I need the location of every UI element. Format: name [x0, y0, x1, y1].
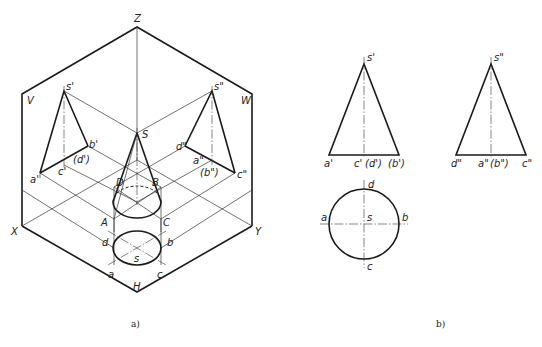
- label-a-dprime: a": [193, 155, 204, 166]
- label-v: V: [27, 95, 35, 106]
- label-s-dprime: s": [214, 81, 224, 92]
- label-a: a: [108, 269, 114, 280]
- projector-c-v: [64, 165, 137, 202]
- label-b-prime: b': [89, 139, 98, 150]
- label-side-c: c": [522, 158, 532, 169]
- label-B: B: [152, 177, 159, 188]
- label-w: W: [241, 95, 252, 106]
- label-side-b: (b"): [490, 158, 509, 169]
- label-x: X: [10, 226, 19, 237]
- label-c: c: [157, 269, 163, 280]
- label-s-prime: s': [66, 81, 74, 92]
- label-side-apex: s": [494, 52, 504, 63]
- figure-b: s' a' c' (d') (b') s" d" a" (b") c" d a …: [320, 52, 532, 329]
- label-top-c: c: [367, 261, 373, 272]
- label-front-c: c': [354, 158, 362, 169]
- label-h: H: [133, 281, 141, 292]
- label-front-apex: s': [367, 52, 375, 63]
- caption-a: a): [131, 319, 140, 329]
- label-top-s: s: [367, 212, 372, 223]
- label-d-prime: (d'): [73, 154, 90, 165]
- label-top-b: b: [402, 212, 408, 223]
- label-front-a: a': [324, 158, 333, 169]
- projector-h-right: [161, 190, 252, 248]
- label-b-dprime: (b"): [200, 167, 219, 178]
- label-side-a: a": [478, 158, 489, 169]
- label-s: s: [134, 253, 139, 264]
- label-top-d: d: [368, 179, 375, 190]
- label-D: D: [116, 177, 124, 188]
- projector-s-v: [64, 91, 137, 133]
- label-d-dprime: d": [176, 141, 187, 152]
- label-C: C: [163, 217, 170, 228]
- cone-generatrix-left: [113, 133, 137, 202]
- projector-s-w: [137, 91, 212, 133]
- label-front-d: (d'): [365, 158, 382, 169]
- label-A: A: [100, 217, 108, 228]
- label-c-prime: c': [58, 166, 66, 177]
- label-b: b: [167, 237, 173, 248]
- label-S: S: [142, 129, 149, 140]
- cone-projection-diagram: Z V W X Y H s' a' b' c' (d') s" d" a" (b…: [0, 0, 542, 347]
- label-front-b: (b'): [388, 158, 405, 169]
- label-top-a: a: [321, 212, 327, 223]
- label-y: Y: [255, 226, 262, 237]
- label-d: d: [102, 237, 109, 248]
- cone-generatrix-right: [137, 133, 161, 202]
- caption-b: b): [436, 319, 445, 329]
- label-c-dprime: c": [237, 169, 247, 180]
- figure-a: Z V W X Y H s' a' b' c' (d') s" d" a" (b…: [10, 13, 262, 329]
- label-a-prime: a': [30, 174, 39, 185]
- label-z: Z: [133, 13, 142, 24]
- label-side-d: d": [451, 158, 462, 169]
